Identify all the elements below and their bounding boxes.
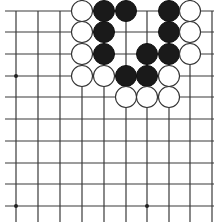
white-stone[interactable] [137, 87, 158, 108]
black-stone[interactable] [159, 1, 180, 22]
black-stone[interactable] [137, 66, 158, 87]
white-stone[interactable] [72, 1, 93, 22]
white-stone[interactable] [116, 87, 137, 108]
black-stone[interactable] [94, 44, 115, 65]
go-board[interactable] [0, 0, 214, 222]
white-stone[interactable] [72, 66, 93, 87]
white-stone[interactable] [94, 66, 115, 87]
white-stone[interactable] [180, 22, 201, 43]
white-stone[interactable] [72, 44, 93, 65]
black-stone[interactable] [116, 66, 137, 87]
black-stone[interactable] [94, 1, 115, 22]
star-point [14, 74, 18, 78]
board-grid [5, 11, 214, 222]
star-point [14, 204, 18, 208]
black-stone[interactable] [159, 22, 180, 43]
black-stone[interactable] [159, 44, 180, 65]
black-stone[interactable] [94, 22, 115, 43]
white-stone[interactable] [180, 1, 201, 22]
white-stone[interactable] [180, 44, 201, 65]
white-stone[interactable] [72, 22, 93, 43]
black-stone[interactable] [137, 44, 158, 65]
white-stone[interactable] [159, 66, 180, 87]
black-stone[interactable] [116, 1, 137, 22]
stones-layer[interactable] [72, 1, 201, 108]
white-stone[interactable] [159, 87, 180, 108]
star-point [145, 204, 149, 208]
